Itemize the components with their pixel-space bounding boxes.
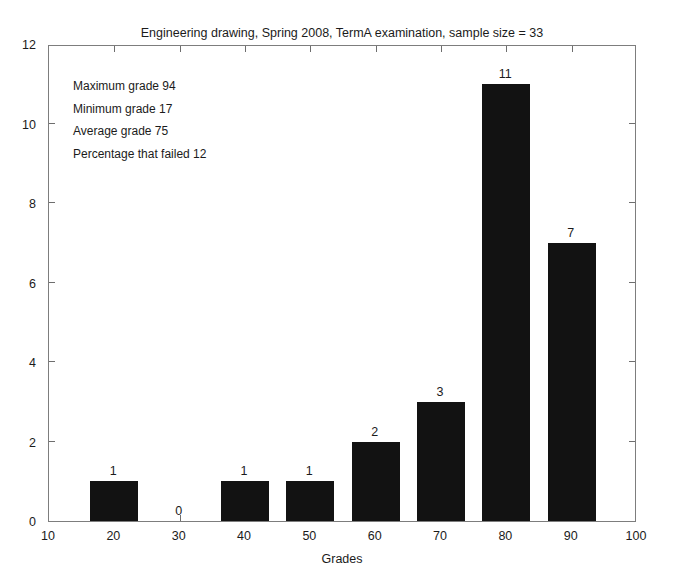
bar-value-label: 7 [547, 227, 595, 240]
y-axis-tick-label: 4 [6, 357, 36, 369]
x-axis-tick-mark [114, 46, 115, 52]
x-axis-tick-label: 60 [350, 530, 400, 542]
x-axis-tick-label: 70 [415, 530, 465, 542]
x-axis-tick-mark [376, 46, 377, 52]
x-axis-tick-mark [506, 46, 507, 52]
bar-value-label: 1 [285, 465, 333, 478]
y-axis-tick-label: 12 [6, 39, 36, 51]
x-axis-tick-mark [441, 46, 442, 52]
y-axis-tick-mark [49, 361, 55, 362]
bar [286, 481, 334, 521]
stat-maximum-grade: Maximum grade 94 [73, 75, 206, 98]
x-axis-tick-label: 30 [154, 530, 204, 542]
y-axis-tick-mark [49, 123, 55, 124]
x-axis-tick-mark [572, 46, 573, 52]
chart-title: Engineering drawing, Spring 2008, TermA … [48, 26, 636, 41]
x-axis-tick-label: 40 [219, 530, 269, 542]
stat-minimum-grade: Minimum grade 17 [73, 98, 206, 121]
x-axis-tick-label: 100 [611, 530, 661, 542]
y-axis-tick-mark [629, 441, 635, 442]
bar [221, 481, 269, 521]
x-axis-tick-label: 10 [23, 530, 73, 542]
stat-average-grade: Average grade 75 [73, 120, 206, 143]
y-axis-tick-label: 8 [6, 198, 36, 210]
bar-value-label: 2 [351, 426, 399, 439]
bar-value-label: 1 [220, 465, 268, 478]
y-axis-tick-mark [629, 123, 635, 124]
x-axis-title: Grades [48, 552, 636, 566]
bar-value-label: 0 [155, 505, 203, 518]
bar [352, 442, 400, 522]
x-axis-tick-label: 50 [284, 530, 334, 542]
y-axis-tick-mark [629, 361, 635, 362]
stat-percent-failed: Percentage that failed 12 [73, 143, 206, 166]
y-axis-tick-label: 6 [6, 278, 36, 290]
x-axis-tick-label: 90 [546, 530, 596, 542]
bar-value-label: 11 [481, 68, 529, 81]
x-axis-tick-mark [245, 46, 246, 52]
histogram-figure: Engineering drawing, Spring 2008, TermA … [0, 0, 679, 584]
statistics-annotation: Maximum grade 94 Minimum grade 17 Averag… [73, 75, 206, 165]
bar [548, 243, 596, 521]
bar-value-label: 1 [89, 465, 137, 478]
bar [482, 84, 530, 521]
y-axis-tick-mark [49, 282, 55, 283]
x-axis-tick-label: 80 [480, 530, 530, 542]
y-axis-tick-mark [629, 202, 635, 203]
y-axis-tick-mark [49, 441, 55, 442]
x-axis-tick-label: 20 [88, 530, 138, 542]
y-axis-tick-mark [49, 202, 55, 203]
y-axis-tick-label: 0 [6, 516, 36, 528]
y-axis-tick-mark [629, 282, 635, 283]
bar [417, 402, 465, 521]
bar [90, 481, 138, 521]
x-axis-tick-mark [310, 46, 311, 52]
x-axis-tick-mark [180, 46, 181, 52]
y-axis-tick-label: 10 [6, 119, 36, 131]
bar-value-label: 3 [416, 386, 464, 399]
y-axis-tick-label: 2 [6, 437, 36, 449]
